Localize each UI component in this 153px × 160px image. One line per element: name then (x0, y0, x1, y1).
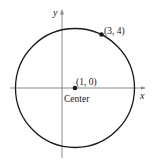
center-caption: Center (64, 94, 90, 104)
circle-diagram: y x (3, 4) (1, 0) Center (0, 0, 153, 160)
point-label: (3, 4) (104, 26, 125, 37)
y-axis-label: y (52, 7, 58, 18)
center-coordinate-label: (1, 0) (76, 77, 97, 88)
x-axis-label: x (139, 90, 145, 101)
